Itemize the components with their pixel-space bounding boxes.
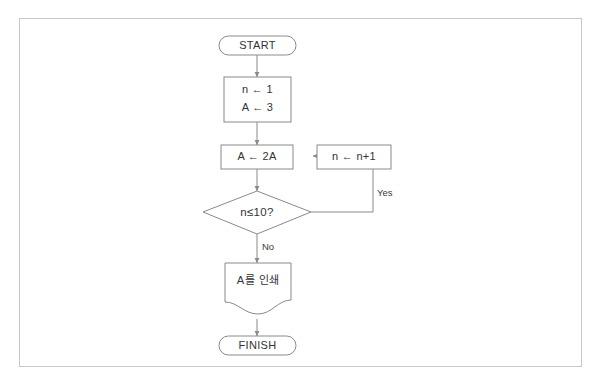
edge-label-yes: Yes	[377, 187, 393, 198]
connector-decision-yes-to-incr	[311, 163, 373, 212]
node-decision[interactable]: n≤10?	[203, 191, 311, 234]
edge-label-no: No	[262, 241, 274, 252]
node-finish[interactable]: FINISH	[219, 336, 296, 355]
process-double-label: A ← 2A	[237, 150, 276, 162]
document-print-label: A를 인쇄	[237, 274, 280, 287]
node-double[interactable]: A ← 2A	[221, 145, 293, 169]
decision-label: n≤10?	[240, 206, 273, 218]
document-print-shape	[225, 263, 291, 314]
diagram-frame: START n ← 1 A ← 3 A ← 2A n ← n+1 n≤1	[19, 18, 582, 367]
terminator-finish-label: FINISH	[239, 339, 277, 351]
flowchart-page: START n ← 1 A ← 3 A ← 2A n ← n+1 n≤1	[0, 0, 601, 385]
process-init-label-line1: n ← 1	[242, 83, 273, 95]
process-init-label-line2: A ← 3	[242, 101, 273, 113]
flowchart-canvas: START n ← 1 A ← 3 A ← 2A n ← n+1 n≤1	[20, 19, 581, 366]
terminator-start-label: START	[239, 39, 276, 51]
node-init[interactable]: n ← 1 A ← 3	[224, 77, 291, 122]
process-incr-label: n ← n+1	[332, 150, 376, 162]
node-incr[interactable]: n ← n+1	[317, 145, 391, 169]
node-print[interactable]: A를 인쇄	[225, 263, 291, 314]
node-start[interactable]: START	[219, 36, 296, 55]
